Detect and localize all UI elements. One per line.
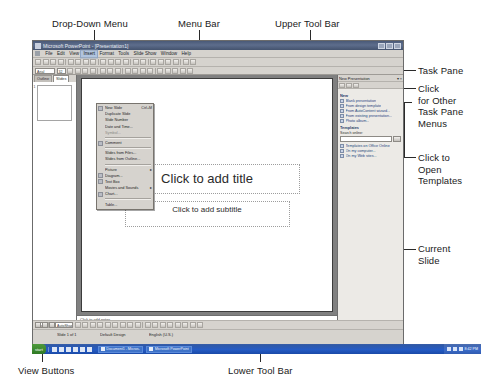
home-icon[interactable]	[353, 83, 359, 88]
menu-item-window[interactable]: Window	[159, 50, 180, 57]
volume-icon[interactable]	[447, 347, 451, 351]
formatting-tool-bar[interactable]: Arial 32	[33, 67, 403, 75]
clip-art-icon[interactable]	[127, 322, 133, 328]
task-pane-link-autocontent-wizard[interactable]: From AutoContent wizard...	[340, 109, 401, 113]
arrow-style-icon[interactable]	[182, 322, 188, 328]
new-slide-button-icon[interactable]	[187, 68, 193, 74]
rectangle-icon[interactable]	[90, 322, 96, 328]
tab-outline[interactable]: Outline	[34, 75, 52, 82]
arrow-icon[interactable]	[82, 322, 88, 328]
insert-table-icon[interactable]	[158, 59, 164, 65]
decrease-indent-icon[interactable]	[157, 68, 163, 74]
view-buttons-group[interactable]	[35, 320, 55, 329]
task-pane-link-label[interactable]: From existing presentation...	[346, 114, 393, 118]
system-tray[interactable]: 8:42 PM	[444, 344, 481, 354]
text-box-icon[interactable]	[105, 322, 111, 328]
new-slide-icon[interactable]	[173, 59, 179, 65]
spelling-check-icon[interactable]	[83, 59, 89, 65]
task-pane-close-icon[interactable]: ×	[400, 76, 402, 81]
task-pane-link-from-design-template[interactable]: From design template	[340, 104, 401, 108]
task-pane-link-label[interactable]: Photo album...	[346, 119, 370, 123]
increase-indent-icon[interactable]	[165, 68, 171, 74]
shadow-style-icon[interactable]	[190, 322, 196, 328]
pane-tab-strip[interactable]: Outline Slides	[33, 75, 76, 82]
menu-option-symbol[interactable]: Symbol...	[97, 130, 153, 136]
task-pane-link-label[interactable]: On my computer...	[346, 149, 376, 153]
folder-icon[interactable]	[80, 347, 85, 352]
menu-item-insert[interactable]: Insert	[81, 50, 97, 57]
slide-show-view-icon[interactable]	[49, 322, 55, 328]
oval-icon[interactable]	[97, 322, 103, 328]
task-pane-link-label[interactable]: From AutoContent wizard...	[346, 109, 391, 113]
cut-scissors-icon[interactable]	[100, 59, 106, 65]
taskbar-item-powerpoint[interactable]: Microsoft PowerPoint...	[146, 346, 192, 353]
restore-button[interactable]	[386, 43, 393, 49]
antivirus-icon[interactable]	[459, 347, 463, 351]
paste-icon[interactable]	[115, 59, 121, 65]
shadow-icon[interactable]	[90, 68, 96, 74]
window-control-buttons[interactable]	[378, 43, 401, 49]
menu-option-slides-from-outline[interactable]: Slides from Outline...	[97, 156, 153, 162]
network-icon[interactable]	[453, 347, 457, 351]
menu-bar[interactable]: File Edit View Insert Format Tools Slide…	[33, 50, 403, 58]
task-pane-link-label[interactable]: On my Web sites...	[346, 154, 377, 158]
decrease-font-icon[interactable]	[147, 68, 153, 74]
copy-icon[interactable]	[108, 59, 114, 65]
insert-chart-icon[interactable]	[150, 59, 156, 65]
print-icon[interactable]	[68, 59, 74, 65]
task-pane-link-label[interactable]: From design template	[346, 104, 382, 108]
media-player-icon[interactable]	[66, 347, 71, 352]
font-color-drawing-icon[interactable]	[160, 322, 166, 328]
slide-sorter-view-icon[interactable]	[42, 322, 48, 328]
3d-style-icon[interactable]	[197, 322, 203, 328]
slide-thumbnail-list[interactable]: 1	[33, 82, 76, 329]
slide-design-icon[interactable]	[180, 68, 186, 74]
upper-tool-bar[interactable]	[33, 58, 403, 67]
forward-arrow-icon[interactable]	[346, 83, 352, 88]
task-pane-link-blank-presentation[interactable]: Blank presentation	[340, 99, 401, 103]
drop-down-menu-insert[interactable]: New Slide Ctrl+M Duplicate Slide Slide N…	[96, 103, 154, 210]
insert-hyperlink-icon[interactable]	[165, 59, 171, 65]
insert-picture-icon[interactable]	[135, 322, 141, 328]
task-pane-link-photo-album[interactable]: Photo album...	[340, 119, 401, 123]
task-pane-link-label[interactable]: Templates on Office Online	[346, 144, 390, 148]
menu-item-view[interactable]: View	[67, 50, 81, 57]
close-button[interactable]	[394, 43, 401, 49]
messenger-icon[interactable]	[87, 347, 92, 352]
save-disk-icon[interactable]	[50, 59, 56, 65]
print-preview-icon[interactable]	[75, 59, 81, 65]
menu-option-table[interactable]: Table...	[97, 201, 153, 207]
bold-icon[interactable]	[67, 68, 73, 74]
search-go-button[interactable]	[393, 136, 401, 142]
menu-item-help[interactable]: Help	[179, 50, 193, 57]
zoom-dropdown-icon[interactable]	[183, 59, 189, 65]
normal-view-icon[interactable]	[35, 322, 41, 328]
mail-icon[interactable]	[73, 347, 78, 352]
undo-arrow-icon[interactable]	[133, 59, 139, 65]
show-desktop-icon[interactable]	[52, 347, 57, 352]
align-left-icon[interactable]	[100, 68, 106, 74]
menu-item-slide-show[interactable]: Slide Show	[131, 50, 158, 57]
autoshapes-menu-button[interactable]: AutoShapes	[55, 322, 73, 328]
slide-thumbnail-1[interactable]	[37, 85, 72, 121]
help-question-icon[interactable]	[190, 59, 196, 65]
menu-item-tools[interactable]: Tools	[116, 50, 131, 57]
line-color-icon[interactable]	[152, 322, 158, 328]
task-pane-search-row[interactable]	[340, 136, 401, 142]
quick-launch-bar[interactable]	[48, 347, 95, 352]
permission-icon[interactable]	[58, 59, 64, 65]
bulleted-list-icon[interactable]	[132, 68, 138, 74]
align-center-icon[interactable]	[107, 68, 113, 74]
task-pane-navigation-bar[interactable]	[338, 82, 403, 89]
open-folder-icon[interactable]	[43, 59, 49, 65]
numbered-list-icon[interactable]	[125, 68, 131, 74]
font-name-combo[interactable]: Arial	[35, 68, 55, 74]
browser-icon[interactable]	[59, 347, 64, 352]
menu-item-edit[interactable]: Edit	[55, 50, 67, 57]
italic-icon[interactable]	[75, 68, 81, 74]
align-right-icon[interactable]	[115, 68, 121, 74]
increase-font-icon[interactable]	[140, 68, 146, 74]
lower-tool-bar[interactable]: Draw AutoShapes	[33, 320, 403, 329]
task-pane-link-templates-office-online[interactable]: Templates on Office Online	[340, 144, 401, 148]
menu-item-format[interactable]: Format	[97, 50, 116, 57]
